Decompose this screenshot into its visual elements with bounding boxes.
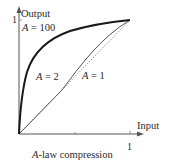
x-axis-label: Input [137,120,159,131]
curve-label-a2: A = 2 [35,71,59,82]
y-tick-label: 1 [12,14,17,25]
curve-eq: = 2 [42,71,58,82]
curve-label-a1: A = 1 [81,70,105,81]
caption: A-law compression [31,149,114,160]
x-tick-label: 1 [127,141,132,152]
curve-label-a100: A = 100 [21,22,55,33]
curve-eq: = 100 [28,22,55,33]
x-axis-arrow-icon [137,132,144,137]
a-law-diagram: Output 1 A = 100 A = 2 A = 1 Input 1 A-l… [0,0,170,166]
y-axis-label: Output [21,8,50,19]
curve-eq: = 1 [88,70,104,81]
caption-text: -law compression [38,149,113,160]
